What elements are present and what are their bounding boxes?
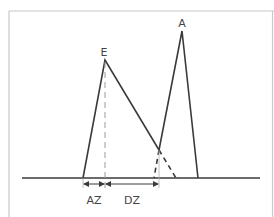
diagram-canvas: E A AZ DZ [0, 0, 274, 217]
peak-e-dashed-tail [159, 150, 176, 178]
frame [9, 11, 274, 217]
dz-label: DZ [124, 194, 140, 207]
peak-a-dashed-lead [154, 150, 159, 178]
peak-a-label: A [178, 17, 186, 30]
peak-diagram: E A AZ DZ [0, 0, 274, 217]
peak-a-curve [159, 31, 198, 178]
peak-e-curve [83, 60, 159, 178]
az-label: AZ [86, 194, 102, 207]
peak-e-label: E [101, 46, 108, 59]
